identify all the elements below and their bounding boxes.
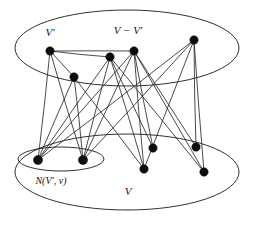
graph-node [70,73,78,81]
graph-node [46,47,54,55]
graph-node [192,143,200,151]
neighborhood-subregion [18,147,104,171]
graph-node [190,36,198,44]
graph-node [200,168,208,176]
graph-node [140,165,148,173]
label-v-minus-vprime: V − V′ [114,24,143,36]
graph-edge [83,51,134,160]
graph-node [106,53,114,61]
graph-node [78,155,87,164]
graph-edge [50,51,110,57]
graph-node [149,144,157,152]
graph-edge [50,51,83,160]
graph-node [33,155,42,164]
label-v-prime: V′ [45,26,55,38]
graph-node [130,47,138,55]
figure-root: V′V − V′N(V′, v)V [0,0,253,228]
graph-edge [38,57,110,160]
graph-diagram: V′V − V′N(V′, v)V [0,0,253,228]
graph-nodes-layer [33,36,208,176]
graph-edge [38,51,134,160]
graph-edge [134,51,204,172]
graph-edge [38,51,50,160]
graph-edges-layer [38,40,204,172]
label-neighborhood: N(V′, v) [34,175,67,187]
graph-edge [194,40,204,172]
label-vertex-set-v: V [125,185,133,197]
graph-edge [110,57,204,172]
